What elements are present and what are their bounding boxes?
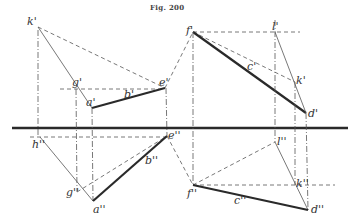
- edge-c2: [193, 185, 308, 210]
- label-f1: f': [185, 24, 193, 37]
- proj-g: [76, 89, 77, 192]
- label-a2: a'': [93, 203, 106, 216]
- label-kr1: k': [296, 74, 306, 87]
- label-l2: l'': [277, 135, 287, 148]
- line-k1-e1: [38, 27, 165, 88]
- label-c1: c': [247, 60, 256, 73]
- label-b2: b'': [145, 154, 158, 167]
- proj-a: [92, 108, 93, 201]
- label-d2: d'': [311, 203, 324, 216]
- label-k1: k': [27, 15, 37, 28]
- line-e1-f1: [165, 32, 193, 88]
- label-g2: g'': [66, 186, 79, 199]
- figure-title: Fig. 200: [150, 3, 184, 12]
- label-c2: c'': [234, 194, 246, 207]
- label-a1: a': [86, 96, 96, 109]
- label-h2: h'': [32, 138, 45, 151]
- label-g1: g': [72, 76, 82, 89]
- edge-b2: [93, 136, 167, 201]
- line-l2-d2: [275, 142, 308, 210]
- label-f2: f'': [186, 187, 197, 200]
- descriptive-geometry-figure: Fig. 200 k' g' e' a' b' f' l' c' k' d' h…: [0, 0, 355, 224]
- label-l1: l': [272, 20, 279, 33]
- line-e2-f2: [167, 136, 193, 185]
- line-k1-a1: [38, 27, 92, 108]
- label-d1: d': [308, 107, 318, 120]
- label-e1: e': [159, 76, 169, 89]
- label-b1: b': [124, 88, 134, 101]
- label-kr2: k'': [296, 177, 309, 190]
- line-f1-kr1: [193, 32, 295, 82]
- line-f2-l2: [193, 142, 275, 185]
- label-e2: e'': [168, 129, 181, 142]
